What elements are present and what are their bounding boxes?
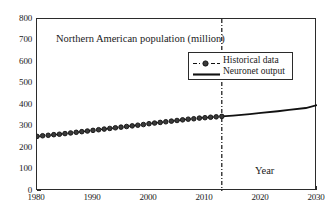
data-point-marker bbox=[102, 127, 107, 132]
x-tick-label: 2000 bbox=[128, 193, 168, 202]
x-tick-label: 1990 bbox=[72, 193, 112, 202]
data-point-marker bbox=[152, 121, 157, 126]
x-axis-caption: Year bbox=[255, 165, 274, 177]
data-point-marker bbox=[136, 123, 141, 128]
data-point-marker bbox=[186, 117, 191, 122]
legend-marker-dashed-circle-icon bbox=[192, 55, 222, 66]
series-neuronet-output-line bbox=[222, 105, 317, 116]
x-tick-label: 2030 bbox=[296, 193, 336, 202]
data-point-marker bbox=[164, 119, 169, 124]
legend-sample-svg-neuronet bbox=[192, 69, 222, 80]
legend-marker-solid-line-icon bbox=[192, 66, 222, 77]
chart-title: Northern American population (million) bbox=[56, 33, 225, 45]
data-point-marker bbox=[192, 116, 197, 121]
data-point-marker bbox=[180, 118, 185, 123]
legend-label-historical-data: Historical data bbox=[222, 55, 279, 66]
legend-item-neuronet-output: Neuronet output bbox=[192, 66, 289, 77]
data-point-marker bbox=[96, 127, 101, 132]
x-tick-label: 2020 bbox=[240, 193, 280, 202]
y-tick-label: 100 bbox=[0, 164, 32, 173]
data-point-marker bbox=[130, 124, 135, 129]
data-point-marker bbox=[40, 133, 45, 138]
data-point-marker bbox=[197, 116, 202, 121]
data-point-marker bbox=[208, 115, 213, 120]
data-point-marker bbox=[147, 121, 152, 126]
x-tick-label: 1980 bbox=[16, 193, 56, 202]
data-point-marker bbox=[80, 129, 85, 134]
series-historical-data-markers bbox=[37, 114, 224, 139]
data-point-marker bbox=[175, 118, 180, 123]
y-tick-label: 400 bbox=[0, 100, 32, 109]
data-point-marker bbox=[141, 122, 146, 127]
data-point-marker bbox=[63, 131, 68, 136]
data-point-marker bbox=[220, 114, 225, 119]
data-point-marker bbox=[203, 115, 208, 120]
legend-label-neuronet-output: Neuronet output bbox=[222, 66, 285, 77]
y-tick-label: 800 bbox=[0, 14, 32, 23]
legend-item-historical-data: Historical data bbox=[192, 55, 289, 66]
data-point-marker bbox=[124, 124, 129, 129]
data-point-marker bbox=[169, 119, 174, 124]
data-point-marker bbox=[74, 130, 79, 135]
data-point-marker bbox=[52, 132, 57, 137]
figure-canvas: 8007006005004003002001000 19801990200020… bbox=[0, 0, 336, 220]
data-point-marker bbox=[158, 120, 163, 125]
data-point-marker bbox=[85, 129, 90, 134]
y-tick-label: 500 bbox=[0, 78, 32, 87]
legend-box: Historical data Neuronet output bbox=[188, 52, 293, 80]
data-point-marker bbox=[113, 125, 118, 130]
data-point-marker bbox=[108, 126, 113, 131]
y-tick-label: 600 bbox=[0, 57, 32, 66]
data-point-marker bbox=[57, 132, 62, 137]
y-tick-label: 700 bbox=[0, 35, 32, 44]
x-tick-label: 2010 bbox=[184, 193, 224, 202]
data-point-marker bbox=[37, 134, 39, 139]
data-point-marker bbox=[214, 115, 219, 120]
y-tick-label: 300 bbox=[0, 121, 32, 130]
data-point-marker bbox=[46, 133, 51, 138]
y-tick-label: 200 bbox=[0, 143, 32, 152]
data-point-marker bbox=[91, 128, 96, 133]
data-point-marker bbox=[119, 125, 124, 130]
data-point-marker bbox=[68, 131, 73, 136]
